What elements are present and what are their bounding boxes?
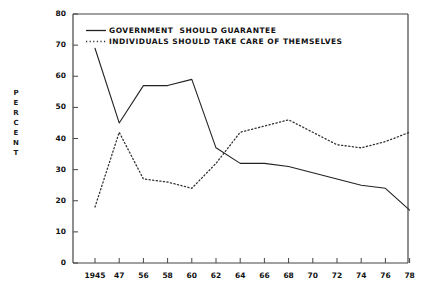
chart-legend: GOVERNMENT SHOULD GUARANTEEINDIVIDUALS S…: [86, 25, 343, 47]
y-axis-title-letter: P: [8, 88, 24, 98]
y-axis-title-letter: C: [8, 118, 24, 128]
x-axis-tick-label: 58: [162, 272, 172, 280]
x-axis-tick-label: 68: [283, 272, 293, 280]
y-axis-tick-label: 60: [40, 72, 66, 80]
legend-item-label: GOVERNMENT SHOULD GUARANTEE: [109, 26, 276, 35]
y-axis-tick-label: 20: [40, 197, 66, 205]
x-axis-tick-label: 47: [114, 272, 124, 280]
x-axis-tick-label: 70: [308, 272, 318, 280]
legend-item: INDIVIDUALS SHOULD TAKE CARE OF THEMSELV…: [86, 36, 343, 47]
axis-frame: [73, 14, 408, 263]
x-axis-tick-label: 64: [235, 272, 245, 280]
y-axis-title-letter: T: [8, 148, 24, 158]
x-axis-tick-label: 76: [380, 272, 390, 280]
x-axis-tick-label: 56: [138, 272, 148, 280]
y-axis-title-letter: E: [8, 98, 24, 108]
y-axis-title: PERCENT: [8, 88, 24, 158]
dotted-line-icon: [86, 38, 106, 45]
x-axis-tick-label: 74: [356, 272, 366, 280]
x-axis-tick-label: 60: [187, 272, 197, 280]
y-axis-title-letter: E: [8, 128, 24, 138]
y-axis-tick-label: 10: [40, 228, 66, 236]
x-axis-tick-label: 1945: [85, 272, 106, 280]
axis-ticks: [73, 14, 410, 263]
x-axis-tick-label: 66: [259, 272, 269, 280]
legend-item: GOVERNMENT SHOULD GUARANTEE: [86, 25, 343, 36]
x-axis-tick-label: 78: [404, 272, 414, 280]
y-axis-tick-label: 80: [40, 10, 66, 18]
solid-line-icon: [86, 27, 106, 34]
y-axis-title-letter: R: [8, 108, 24, 118]
y-axis-title-letter: N: [8, 138, 24, 148]
y-axis-tick-label: 40: [40, 135, 66, 143]
y-axis-tick-label: 0: [40, 259, 66, 267]
x-axis-tick-label: 62: [211, 272, 221, 280]
y-axis-tick-label: 30: [40, 166, 66, 174]
series-lines: [95, 48, 410, 210]
y-axis-tick-label: 70: [40, 41, 66, 49]
y-axis-tick-label: 50: [40, 103, 66, 111]
chart-container: PERCENT 01020304050607080 19454756586062…: [0, 0, 429, 300]
x-axis-tick-label: 72: [332, 272, 342, 280]
legend-item-label: INDIVIDUALS SHOULD TAKE CARE OF THEMSELV…: [109, 37, 343, 46]
